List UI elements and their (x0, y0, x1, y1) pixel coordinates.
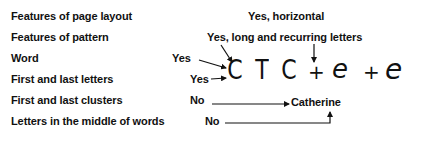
arrows-layer (0, 0, 426, 144)
arrow-word-to-c (199, 60, 226, 68)
arrow-middle-to-catherine (225, 112, 330, 123)
arrow-letters-to-c (211, 78, 226, 79)
arrow-pattern-to-c (221, 45, 232, 62)
